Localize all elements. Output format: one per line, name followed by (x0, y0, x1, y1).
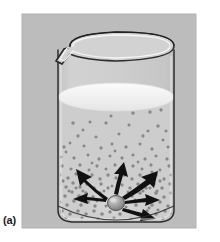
beaker-dissolution-illustration (0, 0, 220, 242)
panel-label: (a) (3, 214, 16, 226)
liquid-surface (58, 83, 174, 111)
figure-container: (a) (0, 0, 220, 242)
dissolving-solid-particle (108, 196, 125, 211)
